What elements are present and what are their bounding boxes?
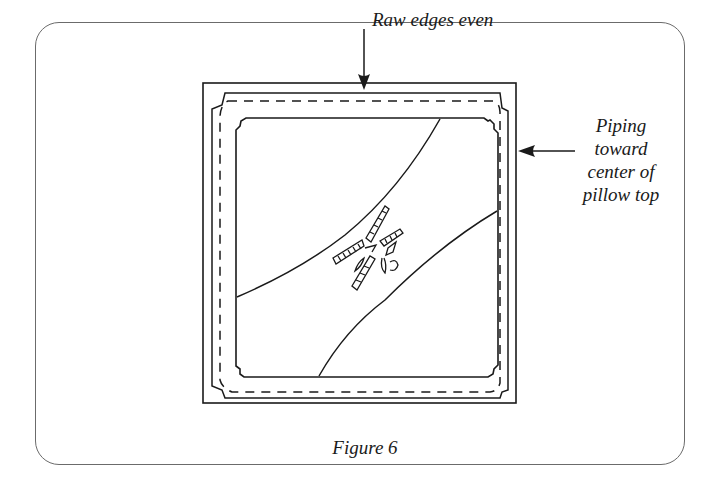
band-line-lower <box>319 211 497 376</box>
outer-square <box>203 83 516 403</box>
piping-arrowhead-icon <box>518 145 535 157</box>
raw-edges-arrowhead-icon <box>358 74 370 90</box>
pillow-diagram <box>0 0 724 489</box>
figure-caption: Figure 6 <box>300 436 430 459</box>
raw-edges-label: Raw edges even <box>372 8 493 31</box>
piping-label-line-3: center of <box>566 160 676 183</box>
center-motif <box>333 206 403 290</box>
piping-outline <box>212 93 508 398</box>
piping-label-line-4: pillow top <box>566 183 676 206</box>
piping-label-line-2: toward <box>566 137 676 160</box>
band-line-upper <box>237 119 440 297</box>
piping-label: Piping toward center of pillow top <box>566 114 676 206</box>
piping-label-line-1: Piping <box>566 114 676 137</box>
